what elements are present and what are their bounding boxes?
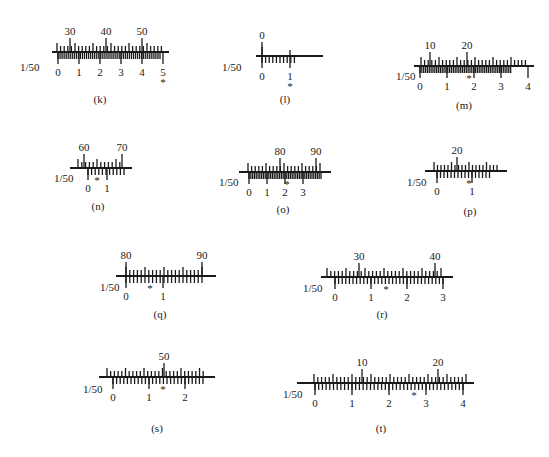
main-scale-label: 20 — [462, 39, 474, 51]
vernier-scale-o: 80900123*1/50(o) — [219, 145, 331, 216]
coincidence-marker: * — [94, 174, 100, 186]
main-scale-label: 60 — [79, 141, 91, 153]
vernier-label: 1 — [368, 291, 374, 303]
least-count-label: 1/50 — [219, 176, 239, 188]
main-scale-label: 10 — [425, 39, 437, 51]
vernier-label: 0 — [434, 185, 440, 197]
vernier-label: 4 — [525, 80, 531, 92]
main-scale-label: 20 — [452, 144, 464, 156]
vernier-scale-r: 30400123*1/50(r) — [303, 250, 453, 321]
vernier-label: 1 — [146, 391, 152, 403]
vernier-label: 3 — [118, 66, 124, 78]
vernier-label: 1 — [264, 186, 270, 198]
vernier-label: 0 — [332, 291, 338, 303]
scale-caption: (k) — [94, 93, 107, 106]
main-scale-label: 0 — [259, 29, 265, 41]
main-scale-label: 90 — [311, 145, 323, 157]
vernier-label: 2 — [404, 291, 410, 303]
vernier-label: 2 — [97, 66, 103, 78]
main-scale-label: 50 — [159, 350, 171, 362]
scale-caption: (s) — [151, 422, 163, 435]
scale-caption: (m) — [456, 99, 472, 112]
main-scale-label: 90 — [197, 249, 209, 261]
coincidence-marker: * — [383, 283, 389, 295]
main-scale-label: 30 — [354, 250, 366, 262]
vernier-scale-p: 2001*1/50(p) — [407, 144, 507, 218]
vernier-scale-k: 304050012345*1/50(k) — [20, 25, 169, 106]
vernier-label: 0 — [123, 290, 129, 302]
main-scale-label: 40 — [101, 25, 113, 37]
least-count-label: 1/50 — [54, 172, 74, 184]
coincidence-marker: * — [284, 178, 290, 190]
vernier-label: 2 — [182, 391, 188, 403]
vernier-scale-n: 607001*1/50(n) — [54, 141, 132, 213]
vernier-label: 1 — [104, 182, 110, 194]
main-scale-label: 80 — [275, 145, 287, 157]
vernier-label: 0 — [417, 80, 423, 92]
vernier-scale-m: 102001234*1/50(m) — [396, 39, 534, 112]
vernier-scale-l: 001*1/50(l) — [222, 29, 323, 106]
main-scale-label: 80 — [121, 249, 133, 261]
vernier-label: 1 — [349, 397, 355, 409]
coincidence-marker: * — [160, 383, 166, 395]
vernier-label: 0 — [55, 66, 61, 78]
least-count-label: 1/50 — [396, 70, 416, 82]
least-count-label: 1/50 — [222, 61, 242, 73]
vernier-label: 3 — [440, 291, 446, 303]
coincidence-marker: * — [411, 389, 417, 401]
scale-caption: (l) — [280, 93, 291, 106]
coincidence-marker: * — [147, 282, 153, 294]
main-scale-label: 10 — [357, 356, 369, 368]
least-count-label: 1/50 — [83, 383, 103, 395]
main-scale-label: 50 — [137, 25, 149, 37]
vernier-label: 4 — [460, 397, 466, 409]
vernier-scale-t: 102001234*1/50(t) — [283, 356, 474, 435]
vernier-figure: 304050012345*1/50(k)001*1/50(l)102001234… — [0, 0, 549, 457]
least-count-label: 1/50 — [100, 281, 120, 293]
main-scale-label: 30 — [65, 25, 77, 37]
scale-caption: (q) — [154, 308, 167, 321]
vernier-label: 0 — [259, 70, 265, 82]
least-count-label: 1/50 — [407, 176, 427, 188]
vernier-scale-s: 50012*1/50(s) — [83, 350, 215, 435]
scale-caption: (t) — [376, 422, 387, 435]
vernier-label: 0 — [312, 397, 318, 409]
main-scale-label: 40 — [430, 250, 442, 262]
least-count-label: 1/50 — [20, 61, 40, 73]
main-scale-label: 70 — [117, 141, 129, 153]
coincidence-marker: * — [287, 80, 293, 92]
coincidence-marker: * — [160, 76, 166, 88]
scale-caption: (r) — [377, 308, 388, 321]
vernier-label: 0 — [246, 186, 252, 198]
vernier-label: 2 — [386, 397, 392, 409]
coincidence-marker: * — [466, 177, 472, 189]
least-count-label: 1/50 — [283, 388, 303, 400]
vernier-label: 1 — [160, 290, 166, 302]
least-count-label: 1/50 — [303, 282, 323, 294]
main-scale-label: 20 — [433, 356, 445, 368]
vernier-label: 0 — [85, 182, 91, 194]
vernier-scale-q: 809001*1/50(q) — [100, 249, 216, 321]
vernier-label: 3 — [498, 80, 504, 92]
vernier-label: 1 — [76, 66, 82, 78]
vernier-label: 3 — [423, 397, 429, 409]
vernier-label: 1 — [444, 80, 450, 92]
vernier-label: 3 — [300, 186, 306, 198]
scale-caption: (p) — [464, 205, 477, 218]
vernier-label: 2 — [471, 80, 477, 92]
vernier-label: 4 — [139, 66, 145, 78]
scale-caption: (n) — [92, 200, 105, 213]
scale-caption: (o) — [277, 203, 290, 216]
vernier-label: 0 — [110, 391, 116, 403]
coincidence-marker: * — [466, 72, 472, 84]
